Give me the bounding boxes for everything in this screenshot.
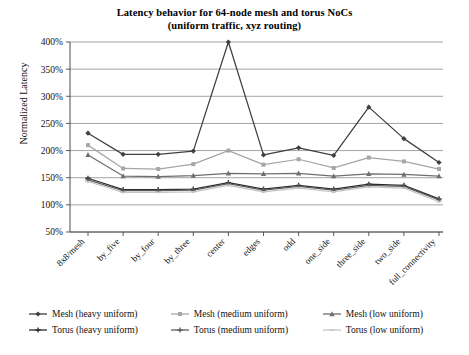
legend-entry-torus-heavy-uniform[interactable]: Torus (heavy uniform): [28, 324, 170, 336]
legend-row: Torus (heavy uniform)Torus (medium unifo…: [28, 322, 443, 338]
series-mesh-heavy-uniform: [85, 39, 441, 165]
legend-entry-mesh-heavy-uniform[interactable]: Mesh (heavy uniform): [28, 308, 170, 320]
legend-entry-mesh-low-uniform[interactable]: Mesh (low uniform): [322, 308, 443, 320]
legend-marker-icon: [322, 308, 342, 320]
legend-marker-icon: [170, 308, 190, 320]
data-point-marker: [367, 156, 371, 160]
data-point-marker: [297, 157, 301, 161]
x-axis-tick-label: one_side: [302, 236, 332, 266]
y-axis-tick-label: 300%: [41, 92, 63, 102]
plot-area: 50%100%150%200%250%300%350%400% 8x8/mesh…: [0, 0, 469, 300]
y-axis-tick-label: 400%: [41, 37, 63, 47]
y-axis-tick-label: 100%: [41, 200, 63, 210]
x-axis-tick-label: by_five: [95, 236, 122, 263]
data-point-marker: [121, 166, 125, 170]
y-axis-tick-label: 350%: [41, 65, 63, 75]
gridlines: [66, 42, 443, 232]
chart-legend: Mesh (heavy uniform)Mesh (medium uniform…: [28, 306, 443, 338]
legend-label: Mesh (low uniform): [346, 309, 423, 320]
x-axis-tick-label: center: [204, 236, 227, 259]
legend-label: Torus (medium uniform): [194, 325, 288, 336]
data-point-marker: [177, 327, 182, 332]
data-point-marker: [296, 145, 301, 150]
legend-entry-torus-low-uniform[interactable]: Torus (low uniform): [322, 324, 443, 336]
legend-marker-icon: [28, 308, 48, 320]
data-point-marker: [86, 143, 90, 147]
data-point-marker: [226, 149, 230, 153]
data-point-marker: [437, 167, 441, 171]
data-point-marker: [35, 311, 40, 316]
x-axis-ticks: [88, 232, 439, 236]
legend-marker-icon: [322, 324, 342, 336]
y-axis-tick-label: 250%: [41, 119, 63, 129]
y-axis-tick-label: 150%: [41, 173, 63, 183]
legend-label: Torus (heavy uniform): [52, 325, 138, 336]
x-axis-tick-label: three_side: [334, 236, 367, 269]
data-point-marker: [402, 159, 406, 163]
x-axis-tick-label: two_side: [372, 236, 402, 266]
legend-marker-icon: [170, 324, 190, 336]
legend-label: Mesh (medium uniform): [194, 309, 288, 320]
legend-row: Mesh (heavy uniform)Mesh (medium uniform…: [28, 306, 443, 322]
data-point-marker: [261, 152, 266, 157]
x-axis-tick-label: by_four: [129, 236, 156, 263]
data-point-marker: [156, 152, 161, 157]
y-axis-tick-labels: 50%100%150%200%250%300%350%400%: [41, 37, 63, 237]
legend-label: Torus (low uniform): [346, 325, 423, 336]
legend-entry-mesh-medium-uniform[interactable]: Mesh (medium uniform): [170, 308, 322, 320]
chart-container: Latency behavior for 64-node mesh and to…: [0, 0, 469, 355]
x-axis-tick-labels: 8x8/meshby_fiveby_fourby_threecenteredge…: [55, 236, 438, 287]
data-point-marker: [191, 162, 195, 166]
data-point-marker: [226, 39, 231, 44]
data-point-marker: [262, 163, 266, 167]
y-axis-tick-label: 200%: [41, 146, 63, 156]
legend-marker-icon: [28, 324, 48, 336]
data-point-marker: [191, 149, 196, 154]
series-polyline: [88, 42, 439, 163]
legend-label: Mesh (heavy uniform): [52, 309, 137, 320]
x-axis-tick-label: edges: [240, 236, 262, 258]
data-point-marker: [178, 312, 182, 316]
data-point-marker: [85, 152, 90, 157]
x-axis-tick-label: by_three: [162, 236, 191, 265]
data-point-marker: [332, 166, 336, 170]
x-axis-tick-label: 8x8/mesh: [55, 236, 87, 268]
data-point-marker: [156, 167, 160, 171]
y-axis-tick-label: 50%: [46, 227, 64, 237]
legend-entry-torus-medium-uniform[interactable]: Torus (medium uniform): [170, 324, 322, 336]
data-point-marker: [35, 327, 40, 332]
x-axis-tick-label: odd: [280, 236, 297, 253]
